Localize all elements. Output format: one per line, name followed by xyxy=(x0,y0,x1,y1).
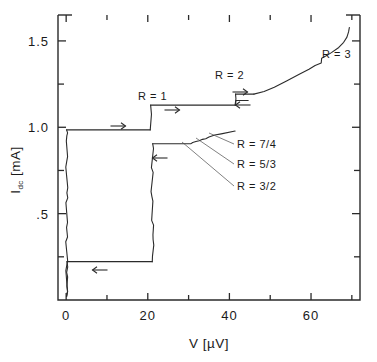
arrow-down-sweep-r2 xyxy=(236,102,251,108)
arrow-down-sweep-r1 xyxy=(153,155,168,161)
y-tick-label: 1.5 xyxy=(28,34,49,49)
y-axis-tick-labels: .51.01.5 xyxy=(28,34,49,222)
x-tick-label: 60 xyxy=(303,308,319,323)
leader-5-3 xyxy=(196,138,234,164)
plot-frame xyxy=(58,15,360,300)
arrow-down-sweep-low xyxy=(93,267,108,273)
arrow-up-sweep-low xyxy=(111,123,126,129)
x-axis-title: V [µV] xyxy=(189,336,229,351)
leader-7-4 xyxy=(209,133,234,144)
curve-return-branch-drop xyxy=(151,144,154,262)
data-curves xyxy=(66,27,350,296)
x-axis-tick-labels: 0204060 xyxy=(62,308,319,323)
curve-R3-branch xyxy=(254,27,350,94)
y-axis-title-text: Idc [mA] xyxy=(8,146,25,194)
x-tick-label: 20 xyxy=(140,308,156,323)
y-axis-title: Idc [mA] xyxy=(8,146,25,194)
arrow-up-sweep-r1 xyxy=(165,107,180,113)
sweep-direction-arrows xyxy=(93,89,251,273)
y-axis-title-unit: [mA] xyxy=(8,146,23,180)
y-tick-label: .5 xyxy=(36,207,49,222)
y-axis-title-subscript: dc xyxy=(16,180,25,189)
iv-characteristic-figure: 0204060 .51.01.5 R = 1R = 2R = 3R = 7/4R… xyxy=(0,0,377,362)
step-label-R1: R = 1 xyxy=(138,90,167,102)
curve-return-branch-lower xyxy=(153,131,235,144)
axis-frame xyxy=(58,15,360,300)
x-tick-label: 0 xyxy=(62,308,70,323)
curve-R1-step-rise xyxy=(150,105,151,130)
step-label-R32: R = 3/2 xyxy=(237,180,276,192)
step-label-R3: R = 3 xyxy=(322,48,351,60)
x-tick-label: 40 xyxy=(221,308,237,323)
axis-ticks xyxy=(58,15,360,300)
y-tick-label: 1.0 xyxy=(28,120,49,135)
plot-canvas: 0204060 .51.01.5 R = 1R = 2R = 3R = 7/4R… xyxy=(0,0,377,362)
annotation-leader-lines xyxy=(182,133,234,186)
leader-3-2 xyxy=(182,142,234,186)
step-label-R2: R = 2 xyxy=(215,69,244,81)
step-annotations: R = 1R = 2R = 3R = 7/4R = 5/3R = 3/2 xyxy=(138,48,351,192)
step-label-R53: R = 5/3 xyxy=(237,158,276,170)
step-label-R74: R = 7/4 xyxy=(237,138,276,150)
x-axis-title-text: V [µV] xyxy=(189,336,229,351)
